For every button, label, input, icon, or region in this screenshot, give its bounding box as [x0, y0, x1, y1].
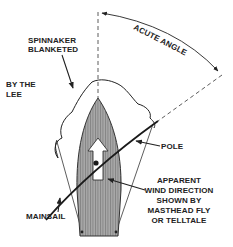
label-pole: POLE — [161, 142, 184, 151]
label-spinnaker-blanketed-1: SPINNAKER — [28, 36, 76, 45]
stern-corner-dot — [115, 231, 118, 234]
label-spinnaker-blanketed-2: BLANKETED — [28, 45, 78, 54]
pole-leader-arrow — [136, 141, 160, 146]
label-apparent-wind-3: SHOWN BY — [157, 196, 202, 205]
guy-line — [116, 124, 153, 232]
label-apparent-wind-4: MASTHEAD FLY — [147, 206, 211, 215]
stern-corner-dot — [81, 231, 84, 234]
label-apparent-wind-5: OR TELLTALE — [151, 216, 207, 225]
label-apparent-wind-1: APPARENT — [157, 176, 201, 185]
label-by-the-lee-2: LEE — [6, 90, 22, 99]
spinnaker-leader-arrow — [62, 55, 73, 88]
mast-dot — [93, 160, 98, 165]
label-apparent-wind-2: WIND DIRECTION — [145, 186, 214, 195]
pole-extension-dashed-line — [158, 75, 222, 121]
label-mainsail: MAINSAIL — [26, 212, 65, 221]
label-by-the-lee-1: BY THE — [6, 80, 36, 89]
sailing-diagram: SPINNAKER BLANKETED BY THE LEE ACUTE ANG… — [0, 0, 233, 247]
